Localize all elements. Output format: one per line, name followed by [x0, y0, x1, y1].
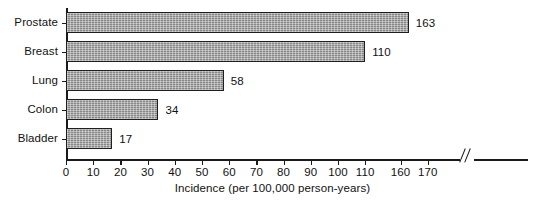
- incidence-bar-chart: ProstateBreastLungColonBladder 163110583…: [0, 0, 545, 206]
- x-axis-tick: [120, 160, 121, 165]
- x-axis-tick-label: 40: [168, 166, 181, 178]
- x-axis-tick-label: 30: [141, 166, 154, 178]
- x-axis-tick: [175, 160, 176, 165]
- x-axis-tick-label: 50: [196, 166, 209, 178]
- bar-prostate: [66, 12, 409, 33]
- x-axis-tick: [311, 160, 312, 165]
- x-axis-tick-label: 100: [328, 166, 348, 178]
- x-axis-tick-label: 70: [250, 166, 263, 178]
- x-axis-tick: [401, 160, 402, 165]
- bar-lung: [66, 70, 224, 91]
- axis-break-icon: [458, 148, 476, 164]
- x-axis-tick-label: 80: [277, 166, 290, 178]
- bar-value-label: 34: [165, 104, 178, 116]
- x-axis-tick-label: 110: [356, 166, 375, 178]
- x-axis-tick-label: 60: [223, 166, 236, 178]
- bar-value-label: 17: [119, 133, 132, 145]
- x-axis-tick: [66, 160, 67, 165]
- x-axis-tick-label: 0: [63, 166, 70, 178]
- x-axis-tick: [202, 160, 203, 165]
- bar-row: 34: [0, 99, 545, 120]
- bar-row: 110: [0, 41, 545, 62]
- x-axis-tick: [93, 160, 94, 165]
- x-axis-tick: [338, 160, 339, 165]
- axis-break-slash-2: [464, 148, 471, 162]
- x-axis-tick: [365, 160, 366, 165]
- bar-value-label: 58: [231, 75, 244, 87]
- axis-break-slash-1: [459, 148, 466, 162]
- bar-bladder: [66, 128, 112, 149]
- bar-value-label: 110: [372, 46, 391, 58]
- x-axis-tick-label: 10: [87, 166, 100, 178]
- x-axis-tick: [148, 160, 149, 165]
- bar-breast: [66, 41, 365, 62]
- bar-row: 163: [0, 12, 545, 33]
- bar-colon: [66, 99, 158, 120]
- x-axis-tick: [428, 160, 429, 165]
- x-axis-tick-label: 20: [114, 166, 127, 178]
- x-axis-tick: [284, 160, 285, 165]
- x-axis-tick-label: 90: [304, 166, 317, 178]
- x-axis-title: Incidence (per 100,000 person-years): [0, 182, 545, 194]
- bar-row: 17: [0, 128, 545, 149]
- x-axis-tick-label: 170: [418, 166, 438, 178]
- x-axis-tick: [256, 160, 257, 165]
- x-axis-line: [66, 159, 528, 161]
- x-axis-tick-label: 160: [391, 166, 411, 178]
- x-axis-tick: [229, 160, 230, 165]
- bar-row: 58: [0, 70, 545, 91]
- bar-value-label: 163: [416, 17, 436, 29]
